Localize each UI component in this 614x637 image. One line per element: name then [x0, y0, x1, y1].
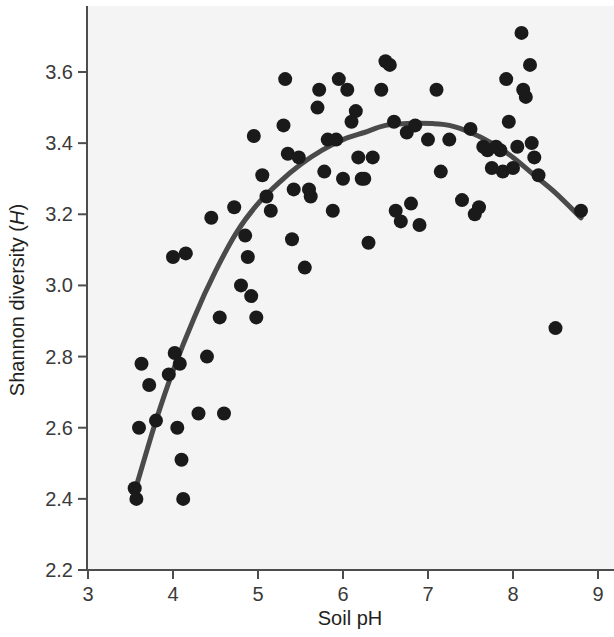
- x-tick-label: 9: [592, 583, 603, 605]
- data-point: [349, 104, 363, 118]
- data-point: [472, 200, 486, 214]
- data-point: [244, 289, 258, 303]
- data-point: [255, 168, 269, 182]
- y-axis-title-text: Shannon diversity: [6, 237, 28, 396]
- data-point: [515, 26, 529, 40]
- data-point: [527, 150, 541, 164]
- data-point: [129, 492, 143, 506]
- y-tick-label: 2.4: [45, 488, 73, 510]
- data-point: [510, 140, 524, 154]
- data-point: [277, 118, 291, 132]
- data-point: [176, 492, 190, 506]
- data-point: [506, 161, 520, 175]
- data-point: [430, 83, 444, 97]
- data-point: [162, 367, 176, 381]
- data-point: [493, 143, 507, 157]
- data-point: [502, 115, 516, 129]
- data-point: [298, 261, 312, 275]
- data-point: [173, 357, 187, 371]
- data-point: [264, 204, 278, 218]
- data-point: [574, 204, 588, 218]
- data-point: [213, 310, 227, 324]
- data-point: [499, 72, 513, 86]
- x-tick-label: 8: [507, 583, 518, 605]
- y-axis-title-symbol: H: [6, 210, 28, 225]
- x-tick-label: 4: [167, 583, 178, 605]
- data-point: [329, 133, 343, 147]
- data-point: [408, 118, 422, 132]
- data-point: [179, 246, 193, 260]
- data-point: [366, 150, 380, 164]
- data-point: [434, 165, 448, 179]
- data-point: [241, 250, 255, 264]
- y-tick-label: 3.6: [45, 61, 73, 83]
- data-point: [247, 129, 261, 143]
- data-point: [351, 150, 365, 164]
- data-point: [227, 200, 241, 214]
- y-tick-label: 3.2: [45, 203, 73, 225]
- data-point: [421, 133, 435, 147]
- x-axis-tick-labels: 3456789: [82, 583, 603, 605]
- data-point: [523, 58, 537, 72]
- data-point: [455, 193, 469, 207]
- data-point: [292, 150, 306, 164]
- data-point: [442, 133, 456, 147]
- data-point: [278, 72, 292, 86]
- data-point: [149, 414, 163, 428]
- data-point: [238, 229, 252, 243]
- data-point: [362, 236, 376, 250]
- data-point: [519, 90, 533, 104]
- y-tick-label: 2.8: [45, 346, 73, 368]
- data-point: [204, 211, 218, 225]
- y-tick-label: 3.4: [45, 132, 73, 154]
- data-point: [525, 136, 539, 150]
- x-tick-label: 7: [422, 583, 433, 605]
- data-point: [357, 172, 371, 186]
- data-point: [383, 58, 397, 72]
- chart-canvas: 2.22.42.62.83.03.23.43.6 3456789 Soil pH…: [0, 0, 614, 637]
- data-point: [234, 278, 248, 292]
- data-point: [549, 321, 563, 335]
- data-point: [249, 310, 263, 324]
- data-point: [260, 190, 274, 204]
- data-point: [340, 83, 354, 97]
- x-tick-label: 5: [252, 583, 263, 605]
- scatter-plot-figure: 2.22.42.62.83.03.23.43.6 3456789 Soil pH…: [0, 0, 614, 637]
- data-point: [200, 350, 214, 364]
- data-point: [304, 190, 318, 204]
- data-point: [404, 197, 418, 211]
- data-point: [317, 165, 331, 179]
- x-tick-label: 3: [82, 583, 93, 605]
- data-point: [312, 83, 326, 97]
- y-tick-label: 2.6: [45, 417, 73, 439]
- x-axis-title: Soil pH: [318, 607, 382, 629]
- y-tick-label: 3.0: [45, 274, 73, 296]
- data-point: [532, 168, 546, 182]
- y-axis-tick-labels: 2.22.42.62.83.03.23.43.6: [45, 61, 73, 581]
- data-point: [394, 214, 408, 228]
- y-axis-title: Shannon diversity (H): [6, 204, 28, 396]
- data-point: [387, 115, 401, 129]
- data-point: [142, 378, 156, 392]
- data-point: [175, 453, 189, 467]
- x-axis-tick-marks: [88, 570, 598, 579]
- data-point: [132, 421, 146, 435]
- data-point: [413, 218, 427, 232]
- data-point: [311, 101, 325, 115]
- x-tick-label: 6: [337, 583, 348, 605]
- data-point: [166, 250, 180, 264]
- data-point: [285, 232, 299, 246]
- data-point: [464, 122, 478, 136]
- data-point: [326, 204, 340, 218]
- data-point: [217, 407, 231, 421]
- data-point: [336, 172, 350, 186]
- y-axis-tick-marks: [78, 72, 87, 570]
- data-point: [170, 421, 184, 435]
- data-point: [135, 357, 149, 371]
- data-point: [287, 182, 301, 196]
- data-point: [374, 83, 388, 97]
- data-point: [192, 407, 206, 421]
- y-tick-label: 2.2: [45, 559, 73, 581]
